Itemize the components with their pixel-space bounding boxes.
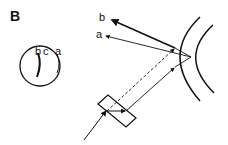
- inset-label-a: a: [55, 45, 62, 57]
- inset-label-b: b: [35, 45, 41, 57]
- incident-ray: [84, 111, 106, 140]
- inset-circle-view: b c a: [20, 45, 62, 86]
- front-surface-arc: [180, 17, 200, 101]
- reflected-ray-b: [112, 20, 175, 48]
- ray-label-a: a: [96, 28, 103, 40]
- ray-label-b: b: [99, 11, 105, 23]
- back-surface-arc: [196, 25, 214, 93]
- inner-ray-upper: [175, 48, 191, 57]
- inset-label-c: c: [43, 45, 49, 57]
- reflected-ray-a: [106, 36, 191, 57]
- panel-label: B: [10, 8, 20, 24]
- inner-ray-lower: [175, 57, 191, 67]
- solid-ray: [126, 68, 174, 111]
- optics-diagram: B b c a b a: [0, 0, 228, 145]
